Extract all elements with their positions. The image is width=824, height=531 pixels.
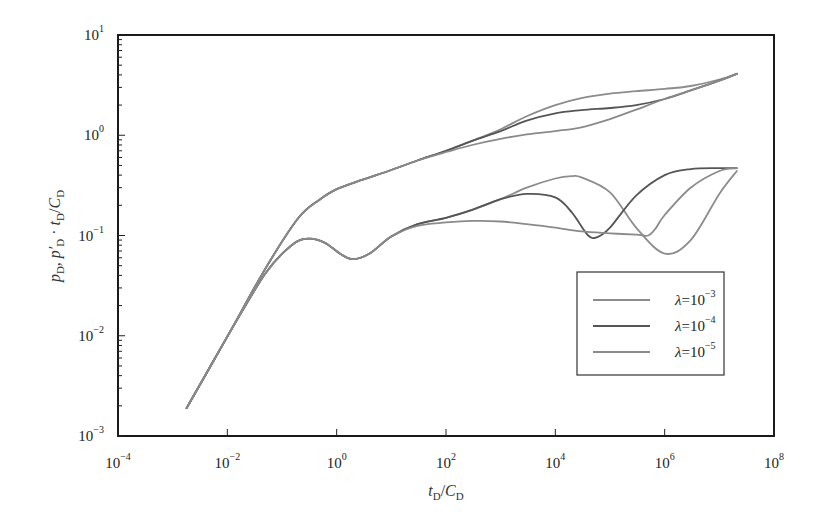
x-axis-title: tD/CD	[428, 482, 464, 502]
y-tick-label: 10−1	[78, 224, 104, 244]
x-tick-label: 100	[327, 451, 347, 471]
x-axis-tick-labels: 10−410−2100102104106108	[105, 451, 784, 471]
x-tick-label: 102	[436, 451, 456, 471]
y-axis-tick-labels: 10−310−210−1100101	[78, 23, 104, 444]
y-tick-label: 100	[84, 123, 104, 143]
y-tick-label: 101	[84, 23, 104, 43]
x-tick-label: 106	[655, 451, 675, 471]
x-tick-label: 104	[545, 451, 565, 471]
x-tick-label: 10−4	[105, 451, 131, 471]
y-tick-label: 10−3	[78, 424, 104, 444]
y-tick-label: 10−2	[78, 324, 104, 344]
chart: 10−410−2100102104106108 10−310−210−11001…	[0, 0, 824, 531]
x-tick-label: 108	[764, 451, 784, 471]
legend: λ=10−3λ=10−4λ=10−5	[577, 272, 724, 375]
y-axis-title: pD, p′D · tD/CD	[46, 190, 66, 283]
minor-ticks	[118, 40, 774, 436]
x-tick-label: 10−2	[215, 451, 241, 471]
